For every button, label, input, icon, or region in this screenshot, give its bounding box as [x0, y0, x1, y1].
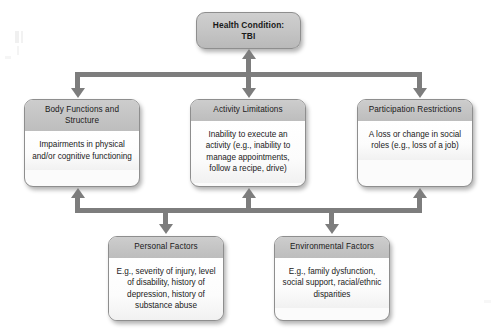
scan-artifact — [484, 300, 491, 303]
node-body-functions-and-structure[interactable]: Body Functions and Structure Impairments… — [24, 99, 140, 187]
node-body-functions-body: Impairments in physical and/or cognitive… — [25, 131, 139, 170]
arrow-up-to-activity-limitations — [242, 188, 256, 198]
arrow-up-to-participation-restrictions — [413, 188, 427, 198]
node-activity-limitations-header: Activity Limitations — [191, 100, 305, 121]
scan-artifact — [21, 31, 23, 43]
node-health-condition-title: Health Condition: — [213, 20, 284, 30]
node-personal-factors-header: Personal Factors — [109, 237, 223, 258]
node-personal-factors[interactable]: Personal Factors E.g., severity of injur… — [108, 236, 224, 321]
node-environmental-factors[interactable]: Environmental Factors E.g., family dysfu… — [274, 236, 390, 321]
node-body-functions-header: Body Functions and Structure — [25, 100, 139, 131]
arrow-to-participation-restrictions — [413, 88, 427, 98]
center-bidirectional-shaft — [246, 55, 251, 90]
node-participation-restrictions-body: A loss or change in social roles (e.g., … — [358, 121, 472, 160]
node-health-condition-header: Health Condition: TBI — [197, 13, 300, 49]
center-arrow-up-to-health-condition — [242, 49, 256, 59]
node-health-condition-subtitle: TBI — [242, 31, 256, 41]
bottom-bus-left-up-leg — [75, 196, 80, 213]
node-activity-limitations[interactable]: Activity Limitations Inability to execut… — [190, 99, 306, 187]
scan-artifact — [17, 46, 19, 55]
scan-artifact — [5, 56, 11, 59]
arrow-to-environmental-factors — [325, 224, 339, 234]
node-environmental-factors-header: Environmental Factors — [275, 237, 389, 258]
scan-artifact — [15, 31, 19, 43]
node-health-condition[interactable]: Health Condition: TBI — [196, 12, 301, 49]
arrow-to-body-functions — [71, 88, 85, 98]
icf-tbi-diagram: Health Condition: TBI Body Functions and… — [0, 0, 495, 335]
arrow-to-personal-factors — [159, 224, 173, 234]
bottom-bus-right-up-leg — [417, 196, 422, 213]
node-participation-restrictions[interactable]: Participation Restrictions A loss or cha… — [357, 99, 473, 187]
center-arrow-down-to-activity — [242, 88, 256, 98]
bottom-bus-center-up-leg — [246, 196, 251, 213]
node-activity-limitations-body: Inability to execute an activity (e.g., … — [191, 121, 305, 183]
arrow-up-to-body-functions — [71, 188, 85, 198]
node-participation-restrictions-header: Participation Restrictions — [358, 100, 472, 121]
node-personal-factors-body: E.g., severity of injury, level of disab… — [109, 258, 223, 320]
node-environmental-factors-body: E.g., family dysfunction, social support… — [275, 258, 389, 309]
